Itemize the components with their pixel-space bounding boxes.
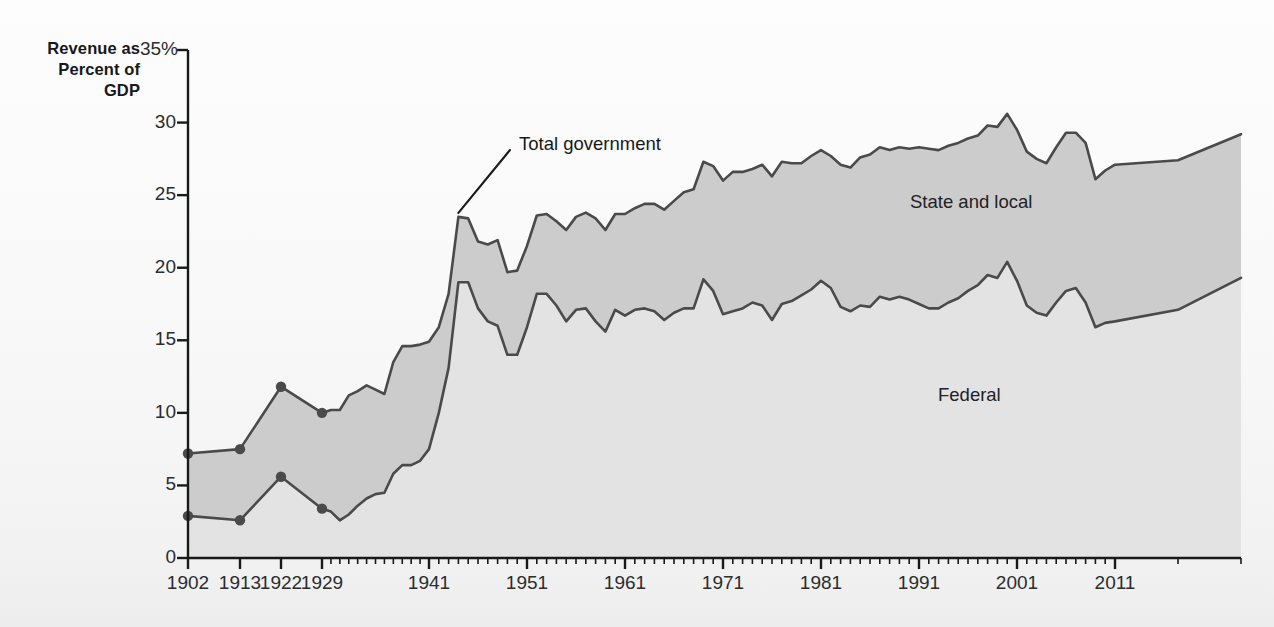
chart-page: Revenue as Percent of GDP 05101520253035… [0, 0, 1274, 627]
x-tick-1902: 1902 [167, 572, 209, 594]
x-tick-1929: 1929 [301, 572, 343, 594]
callout-label-total-government: Total government [519, 133, 661, 155]
area-label-state-and-local: State and local [910, 191, 1032, 213]
x-tick-1941: 1941 [408, 572, 450, 594]
y-tick-20: 20 [130, 256, 176, 278]
x-tick-1913: 1913 [219, 572, 261, 594]
area-label-federal: Federal [938, 384, 1001, 406]
y-tick-15: 15 [130, 328, 176, 350]
x-tick-1971: 1971 [702, 572, 744, 594]
x-tick-2001: 2001 [996, 572, 1038, 594]
x-tick-1991: 1991 [898, 572, 940, 594]
x-tick-1922: 1922 [260, 572, 302, 594]
x-tick-1981: 1981 [800, 572, 842, 594]
revenue-area-chart [0, 0, 1274, 627]
y-tick-35: 35% [122, 38, 178, 60]
x-tick-1961: 1961 [604, 572, 646, 594]
x-tick-2011: 2011 [1095, 572, 1136, 594]
x-tick-1951: 1951 [506, 572, 548, 594]
y-tick-0: 0 [130, 546, 176, 568]
y-tick-5: 5 [130, 473, 176, 495]
y-tick-10: 10 [130, 401, 176, 423]
y-tick-25: 25 [130, 183, 176, 205]
y-tick-30: 30 [130, 111, 176, 133]
